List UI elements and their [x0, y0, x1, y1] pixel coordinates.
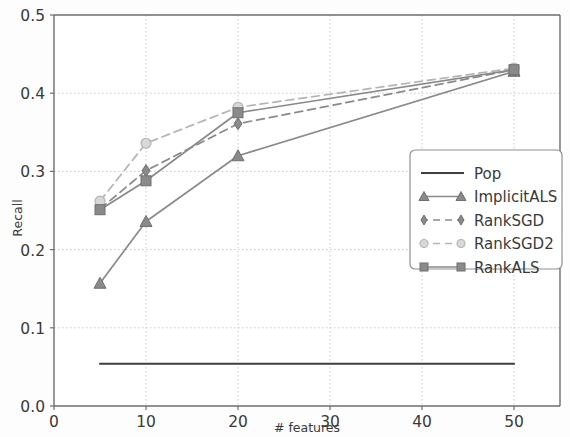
- data-point-marker: [233, 108, 243, 118]
- legend-label: RankSGD2: [474, 235, 554, 253]
- y-axis-label: Recall: [10, 199, 25, 236]
- data-point-marker: [95, 205, 105, 215]
- legend-marker-sample: [420, 240, 428, 248]
- legend: PopImplicitALSRankSGDRankSGD2RankALS: [410, 150, 562, 277]
- legend-label: ImplicitALS: [474, 188, 557, 206]
- legend-marker-sample: [420, 263, 428, 271]
- x-tick-label: 20: [228, 413, 248, 431]
- x-tick-label: 50: [504, 413, 524, 431]
- data-point-marker: [509, 65, 519, 75]
- y-tick-label: 0.3: [20, 163, 45, 181]
- x-tick-label: 40: [412, 413, 432, 431]
- y-tick-label: 0.5: [20, 7, 45, 25]
- data-point-marker: [141, 138, 151, 148]
- x-tick-label: 0: [49, 413, 59, 431]
- legend-label: RankALS: [474, 259, 540, 277]
- y-tick-label: 0.0: [20, 398, 45, 416]
- x-tick-label: 10: [136, 413, 156, 431]
- legend-label: Pop: [474, 165, 501, 183]
- legend-marker-sample: [457, 240, 465, 248]
- y-tick-label: 0.2: [20, 242, 45, 260]
- y-tick-label: 0.4: [20, 85, 45, 103]
- recall-vs-features-line-chart: 01020304050 0.00.10.20.30.40.5 # feature…: [0, 0, 570, 437]
- chart-figure: 01020304050 0.00.10.20.30.40.5 # feature…: [0, 0, 570, 437]
- x-axis-label: # features: [274, 420, 340, 435]
- data-point-marker: [141, 176, 151, 186]
- legend-label: RankSGD: [474, 212, 544, 230]
- y-tick-label: 0.1: [20, 320, 45, 338]
- legend-marker-sample: [457, 263, 465, 271]
